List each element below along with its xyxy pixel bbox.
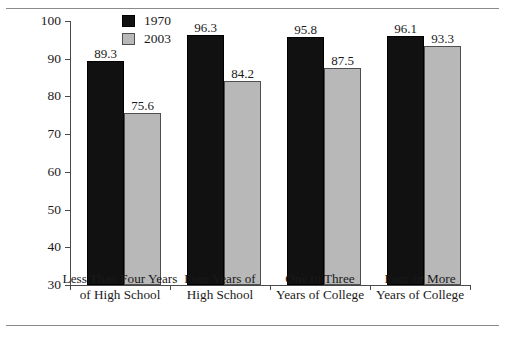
bar-value-label: 84.2 <box>231 67 254 80</box>
bar[interactable]: 84.2 <box>224 81 261 285</box>
divider-bottom <box>6 325 499 326</box>
bar-value-label: 96.1 <box>394 22 417 35</box>
light-swatch-icon <box>122 33 135 45</box>
x-axis-category-label: Four Years of High School <box>162 271 278 302</box>
bar[interactable]: 87.5 <box>324 68 361 285</box>
plot-area: 30405060708090100 89.375.696.384.295.887… <box>70 21 470 285</box>
legend-item[interactable]: 1970 <box>122 13 171 29</box>
legend-item-label: 2003 <box>144 32 171 46</box>
bar-group: 95.887.5 <box>270 21 370 285</box>
bar-value-label: 75.6 <box>131 99 154 112</box>
bar[interactable]: 96.3 <box>187 35 224 285</box>
bar[interactable]: 96.1 <box>387 36 424 285</box>
bar-group: 96.384.2 <box>170 21 270 285</box>
bar-group: 96.193.3 <box>370 21 470 285</box>
bar-value-label: 87.5 <box>331 54 354 67</box>
legend-item[interactable]: 2003 <box>122 31 171 47</box>
bar-value-label: 95.8 <box>294 23 317 36</box>
bar-value-label: 93.3 <box>431 32 454 45</box>
x-axis-category-label: One to Three Years of College <box>262 271 378 302</box>
x-axis-category-label: Four or More Years of College <box>362 271 478 302</box>
chart-page: { "chart_data": { "type": "bar", "title"… <box>0 0 505 338</box>
chart-legend: 1970 2003 <box>122 13 171 49</box>
y-axis-tick-label: 90 <box>48 52 62 66</box>
legend-item-label: 1970 <box>144 14 171 28</box>
bar-value-label: 89.3 <box>94 47 117 60</box>
y-axis-tick-label: 40 <box>48 241 62 255</box>
y-axis-tick-label: 70 <box>48 127 62 141</box>
y-axis-tick-label: 80 <box>48 90 62 104</box>
bar[interactable]: 75.6 <box>124 113 161 285</box>
bar[interactable]: 95.8 <box>287 37 324 285</box>
x-axis-category-label: Less Than Four Years of High School <box>62 271 178 302</box>
y-axis-tick-label: 30 <box>48 278 62 292</box>
y-axis-tick-label: 60 <box>48 165 62 179</box>
y-axis-tick-label: 50 <box>48 203 62 217</box>
bar[interactable]: 89.3 <box>87 61 124 285</box>
y-axis-tick-label: 100 <box>41 14 61 28</box>
bar-value-label: 96.3 <box>194 21 217 34</box>
bar[interactable]: 93.3 <box>424 46 461 285</box>
divider-top <box>6 8 499 9</box>
dark-swatch-icon <box>122 15 135 27</box>
bar-group: 89.375.6 <box>70 21 170 285</box>
